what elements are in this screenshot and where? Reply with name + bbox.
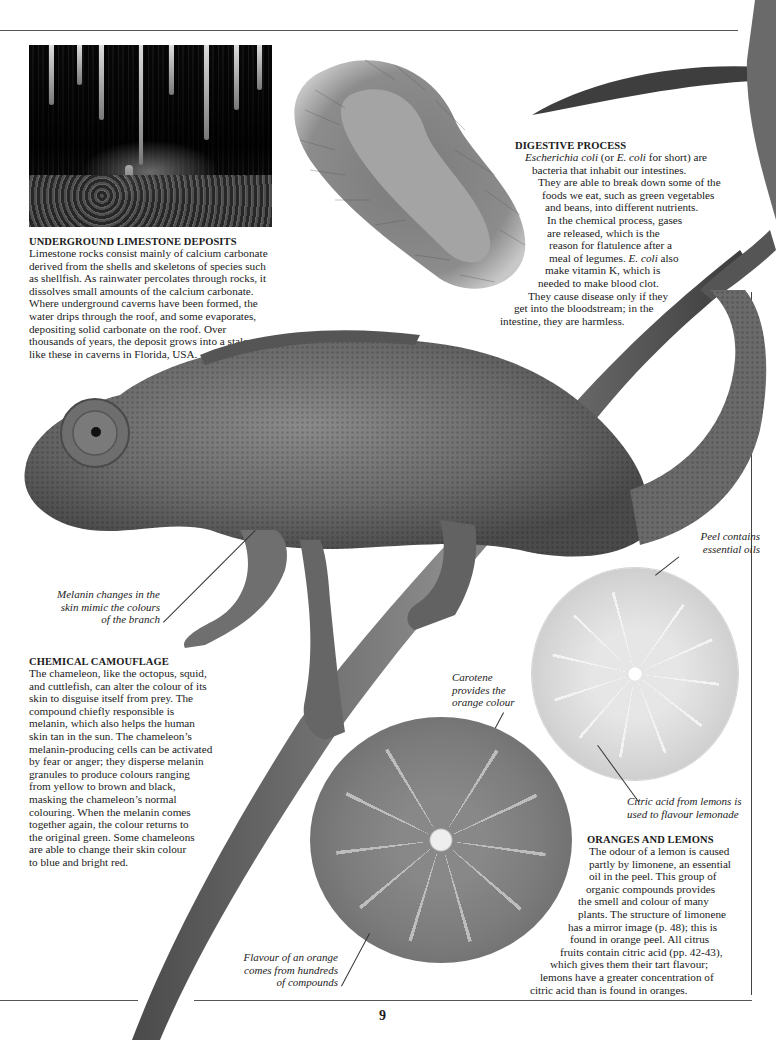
citrus-body: The odour of a lemon is caused partly by…: [520, 845, 752, 996]
caption-peel: Peel contains essential oils: [680, 530, 760, 555]
caption-carotene: Carotene provides the orange colour: [452, 671, 532, 709]
citrus-heading: ORANGES AND LEMONS: [587, 834, 752, 845]
caption-flavour: Flavour of an orange comes from hundreds…: [222, 951, 338, 989]
camouflage-body: The chameleon, like the octopus, squid, …: [29, 667, 289, 869]
caption-citric: Citric acid from lemons is used to flavo…: [627, 795, 767, 820]
caption-melanin: Melanin changes in the skin mimic the co…: [40, 588, 160, 626]
camouflage-heading: CHEMICAL CAMOUFLAGE: [29, 656, 289, 667]
citrus-section: ORANGES AND LEMONS The odour of a lemon …: [520, 834, 752, 996]
lemon-segments: [532, 568, 738, 780]
camouflage-section: CHEMICAL CAMOUFLAGE The chameleon, like …: [29, 656, 289, 869]
page-number: 9: [379, 1008, 386, 1024]
